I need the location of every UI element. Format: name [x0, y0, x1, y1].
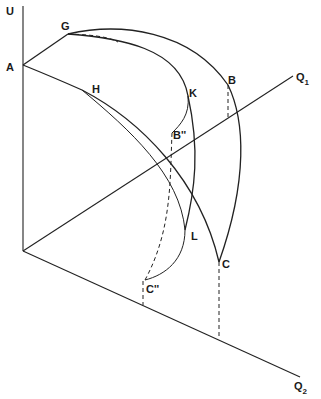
curve-k-b2: [172, 96, 188, 133]
segment-a-g: [23, 34, 68, 65]
curve-h-c: [82, 90, 219, 262]
q1-axis: [23, 76, 293, 251]
u-axis-label: U: [6, 5, 14, 17]
q1-axis-label: Q1: [296, 71, 310, 87]
curve-h-l: [82, 90, 185, 230]
point-g-label: G: [61, 20, 70, 32]
point-b-label: B: [228, 74, 236, 86]
point-l-label: L: [191, 230, 198, 242]
q2-axis: [23, 251, 300, 377]
point-c-label: C: [222, 258, 230, 270]
point-a-label: A: [6, 61, 14, 73]
curve-l-c2: [145, 230, 185, 280]
point-h-label: H: [92, 83, 100, 95]
dashed-b2-c2: [145, 133, 172, 280]
q2-axis-label: Q2: [294, 380, 308, 396]
utility-possibility-diagram: U A G H K B B'' L C C'' Q1 Q2: [0, 0, 321, 399]
curve-g-b-c: [68, 29, 241, 262]
point-c2-label: C'': [146, 283, 160, 295]
point-b2-label: B'': [173, 129, 187, 141]
segment-a-h: [23, 65, 82, 90]
point-k-label: K: [189, 87, 197, 99]
